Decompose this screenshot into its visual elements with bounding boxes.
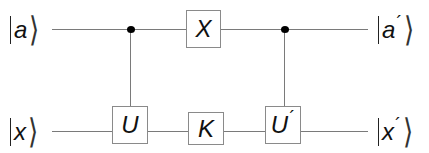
input-ket-x: x ⟩ (10, 116, 38, 147)
gate-u: U (112, 106, 148, 144)
prime-mark: ´ (396, 13, 402, 34)
ket-symbol: a (382, 16, 395, 44)
output-ket-a-prime: a ´ ⟩ (378, 14, 414, 45)
gate-label: K (198, 115, 214, 143)
ket-angle: ⟩ (28, 111, 38, 151)
ket-symbol: x (382, 118, 394, 146)
gate-x: X (186, 10, 221, 48)
ket-angle: ⟩ (29, 9, 39, 49)
ket-bar (10, 16, 11, 44)
ket-angle: ⟩ (404, 9, 414, 49)
quantum-circuit-diagram: a ⟩ x ⟩ U X K U´ a ´ ⟩ x ´ ⟩ (0, 0, 429, 153)
gate-label: U (271, 111, 288, 139)
gate-k: K (188, 112, 224, 145)
gate-u-prime: U´ (265, 106, 301, 144)
ket-symbol: x (14, 118, 26, 146)
prime-mark: ´ (289, 108, 295, 129)
control-dot-u-prime (281, 26, 289, 33)
gate-label: X (195, 15, 211, 43)
ket-angle: ⟩ (403, 111, 413, 151)
input-ket-a: a ⟩ (10, 14, 39, 45)
control-dot-u (127, 26, 135, 33)
control-line-u (130, 29, 131, 106)
gate-label: U (121, 111, 138, 139)
prime-mark: ´ (395, 115, 401, 136)
ket-bar (378, 118, 379, 146)
ket-bar (10, 118, 11, 146)
output-ket-x-prime: x ´ ⟩ (378, 116, 413, 147)
control-line-u-prime (284, 29, 285, 107)
ket-bar (378, 16, 379, 44)
ket-symbol: a (14, 16, 27, 44)
